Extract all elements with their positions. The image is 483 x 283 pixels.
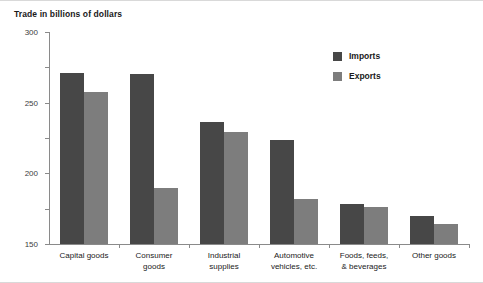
y-axis-tick: 100 <box>45 173 49 174</box>
x-axis-tick <box>399 244 400 248</box>
x-axis-tick <box>469 244 470 248</box>
category-label-line: goods <box>119 262 189 273</box>
legend-swatch-icon <box>333 72 342 81</box>
y-axis-tick-label: 300 <box>25 28 38 37</box>
y-axis-tick-label: 250 <box>25 98 38 107</box>
category-label-line: & beverages <box>329 262 399 273</box>
bar-exports <box>224 132 248 244</box>
y-axis-tick: 200 <box>45 103 49 104</box>
bar-group <box>410 32 458 244</box>
legend-label: Exports <box>349 71 381 81</box>
category-label-line: Automotive <box>259 251 329 262</box>
y-axis-tick: 150 <box>45 138 49 139</box>
bar-imports <box>200 122 224 244</box>
y-axis-tick: 300 <box>45 32 49 33</box>
category-label: Industrialsupplies <box>189 251 259 272</box>
bar-exports <box>294 199 318 244</box>
x-axis-tick <box>329 244 330 248</box>
x-axis-tick <box>259 244 260 248</box>
x-axis-tick <box>189 244 190 248</box>
bar-exports <box>154 188 178 244</box>
bar-imports <box>340 204 364 244</box>
y-axis-tick-label: 200 <box>25 169 38 178</box>
legend-item-exports: Exports <box>333 71 381 81</box>
bar-imports <box>270 140 294 244</box>
y-axis-line <box>49 32 50 244</box>
y-axis-tick: 0 <box>45 244 49 245</box>
category-label-line: Industrial <box>189 251 259 262</box>
y-axis-tick-label: 150 <box>25 240 38 249</box>
bar-exports <box>364 207 388 244</box>
y-axis-tick: 50 <box>45 209 49 210</box>
category-label-line: supplies <box>189 262 259 273</box>
bar-exports <box>434 224 458 244</box>
category-label-line: Consumer <box>119 251 189 262</box>
legend-swatch-icon <box>333 52 342 61</box>
plot-area: 050100150200250300 Capital goodsConsumer… <box>49 32 469 244</box>
legend-label: Imports <box>349 51 380 61</box>
bar-group <box>270 32 318 244</box>
bar-group <box>60 32 108 244</box>
category-label-line: vehicles, etc. <box>259 262 329 273</box>
trade-bar-chart: Trade in billions of dollars 05010015020… <box>0 0 483 283</box>
category-label-line: Foods, feeds, <box>329 251 399 262</box>
category-label: Foods, feeds,& beverages <box>329 251 399 272</box>
bar-imports <box>130 74 154 244</box>
x-axis-tick <box>119 244 120 248</box>
bar-group <box>130 32 178 244</box>
chart-title: Trade in billions of dollars <box>14 9 122 19</box>
y-axis-tick: 250 <box>45 67 49 68</box>
bar-exports <box>84 92 108 244</box>
legend-item-imports: Imports <box>333 51 381 61</box>
bar-imports <box>410 216 434 244</box>
category-label-line: Capital goods <box>49 251 119 262</box>
category-label: Other goods <box>399 251 469 262</box>
category-label: Automotivevehicles, etc. <box>259 251 329 272</box>
chart-legend: ImportsExports <box>333 51 381 91</box>
bar-imports <box>60 73 84 244</box>
category-label: Capital goods <box>49 251 119 262</box>
category-label-line: Other goods <box>399 251 469 262</box>
category-label: Consumergoods <box>119 251 189 272</box>
bar-group <box>200 32 248 244</box>
